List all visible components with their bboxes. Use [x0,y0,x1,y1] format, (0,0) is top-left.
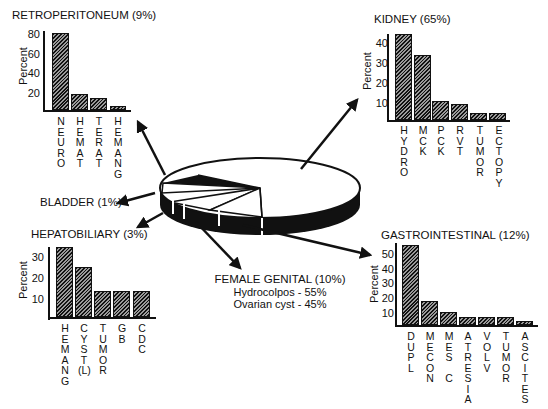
arrow-bladder [118,193,155,203]
arrow-hepatobiliary [138,213,163,227]
arrow-kidney [301,100,357,169]
pie-and-arrows [0,0,548,409]
arrow-retroperitoneum [138,122,165,175]
